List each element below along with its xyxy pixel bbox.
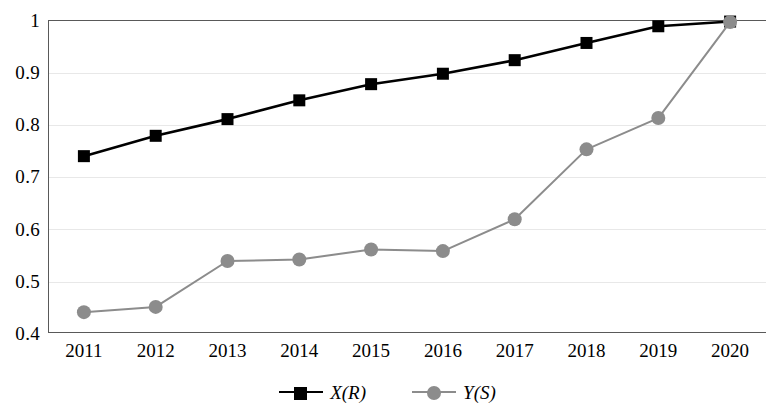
gridline — [49, 282, 766, 283]
x-axis-tick-label: 2011 — [65, 340, 102, 362]
gridline — [49, 229, 766, 230]
legend-label: Y(S) — [463, 383, 496, 402]
gridline — [49, 125, 766, 126]
y-axis-tick-label: 0.4 — [0, 324, 40, 343]
gridline — [49, 73, 766, 74]
chart-legend: X(R) Y(S) — [0, 378, 775, 406]
y-axis-tick-label: 0.7 — [0, 167, 40, 186]
x-axis-tick-label: 2012 — [137, 340, 175, 362]
x-axis-tick-label: 2017 — [496, 340, 534, 362]
legend-label: X(R) — [330, 383, 366, 402]
gridline — [49, 177, 766, 178]
y-axis-tick-label: 0.9 — [0, 63, 40, 82]
x-axis-tick-label: 2015 — [352, 340, 390, 362]
x-axis-tick-label: 2018 — [568, 340, 606, 362]
circle-marker-icon — [412, 384, 456, 400]
y-axis-tick-label: 1 — [0, 11, 40, 30]
x-axis-tick-label: 2016 — [424, 340, 462, 362]
square-marker-icon — [279, 384, 323, 400]
line-chart: 1 0.9 0.8 0.7 0.6 0.5 0.4 20112012201320… — [0, 0, 775, 409]
legend-item-x-r: X(R) — [279, 383, 366, 402]
y-axis-tick-label: 0.6 — [0, 220, 40, 239]
legend-item-y-s: Y(S) — [412, 383, 496, 402]
y-axis-tick-label: 0.8 — [0, 115, 40, 134]
x-axis-tick-label: 2013 — [209, 340, 247, 362]
plot-area — [48, 20, 766, 333]
x-axis-tick-label: 2020 — [711, 340, 749, 362]
x-axis-tick-label: 2019 — [639, 340, 677, 362]
y-axis-tick-label: 0.5 — [0, 272, 40, 291]
x-axis-labels: 2011201220132014201520162017201820192020 — [48, 340, 766, 368]
x-axis-tick-label: 2014 — [280, 340, 318, 362]
